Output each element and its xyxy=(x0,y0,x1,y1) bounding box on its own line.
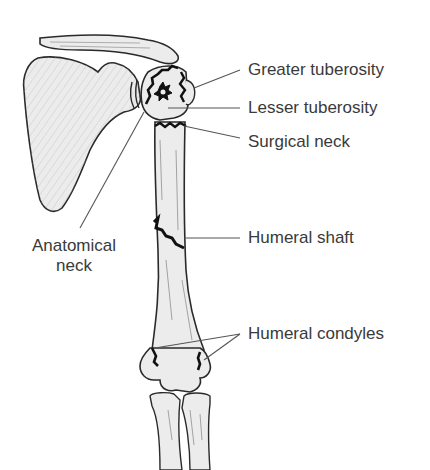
leader-greater-tuberosity xyxy=(194,70,240,88)
scapula xyxy=(24,57,141,211)
label-surgical-neck: Surgical neck xyxy=(248,132,350,152)
humeral-condyles xyxy=(140,348,210,392)
label-anatomical-neck: Anatomical neck xyxy=(22,236,126,276)
label-humeral-condyles: Humeral condyles xyxy=(248,324,384,344)
humeral-shaft xyxy=(152,122,204,350)
humeral-head xyxy=(141,66,194,120)
humerus-fracture-diagram: Greater tuberosity Lesser tuberosity Sur… xyxy=(0,0,430,470)
label-anatomical-neck-line1: Anatomical xyxy=(22,236,126,256)
label-lesser-tuberosity: Lesser tuberosity xyxy=(248,98,377,118)
forearm-bones xyxy=(150,393,210,470)
label-greater-tuberosity: Greater tuberosity xyxy=(248,60,384,80)
label-humeral-shaft: Humeral shaft xyxy=(248,228,354,248)
label-anatomical-neck-line2: neck xyxy=(22,256,126,276)
leader-surgical-neck xyxy=(184,126,240,138)
leader-humeral-condyles-2 xyxy=(204,334,240,360)
